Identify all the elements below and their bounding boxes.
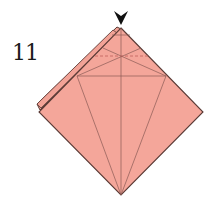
origami-diagram bbox=[0, 0, 223, 208]
push-arrow-icon bbox=[114, 11, 128, 25]
